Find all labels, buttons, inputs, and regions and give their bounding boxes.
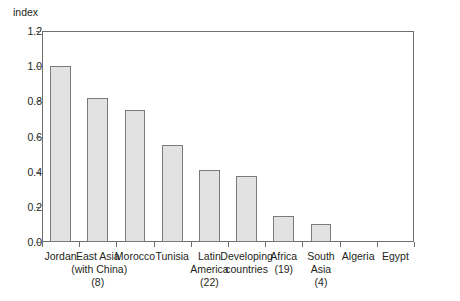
x-axis-label: Egypt bbox=[369, 250, 422, 263]
x-axis-tick-mark bbox=[228, 242, 229, 247]
x-axis-tick-mark bbox=[191, 242, 192, 247]
bar bbox=[273, 216, 294, 242]
bar bbox=[87, 98, 108, 242]
x-axis-label-line: (with China) bbox=[71, 263, 124, 276]
y-axis-tick-mark bbox=[36, 66, 41, 67]
bar bbox=[236, 176, 257, 242]
x-axis-tick-mark bbox=[79, 242, 80, 247]
x-axis-tick-mark bbox=[42, 242, 43, 247]
y-axis-tick-mark bbox=[36, 137, 41, 138]
x-axis-tick-mark bbox=[154, 242, 155, 247]
x-axis-label-line: Asia bbox=[294, 263, 347, 276]
y-axis-tick-mark bbox=[36, 172, 41, 173]
x-axis-tick-mark bbox=[414, 242, 415, 247]
bar bbox=[199, 170, 220, 242]
x-axis-label-line: (4) bbox=[294, 276, 347, 289]
bar bbox=[311, 224, 332, 242]
x-axis-tick-mark bbox=[265, 242, 266, 247]
bar bbox=[50, 66, 71, 242]
bar bbox=[162, 145, 183, 242]
x-axis-label-line: (8) bbox=[71, 276, 124, 289]
bar-chart: index 0.00.20.40.60.81.01.2 JordanEast A… bbox=[0, 0, 460, 301]
bar bbox=[125, 110, 146, 242]
y-axis-tick-mark bbox=[36, 101, 41, 102]
x-axis-tick-mark bbox=[302, 242, 303, 247]
y-axis-title: index bbox=[13, 6, 38, 18]
bar-series bbox=[42, 31, 414, 242]
x-axis-tick-mark bbox=[377, 242, 378, 247]
x-axis-label-line: Egypt bbox=[369, 250, 422, 263]
x-axis-label-line: (22) bbox=[183, 276, 236, 289]
y-axis-tick-mark bbox=[36, 207, 41, 208]
y-axis-tick-mark bbox=[36, 242, 41, 243]
x-axis-tick-mark bbox=[116, 242, 117, 247]
x-axis-tick-mark bbox=[340, 242, 341, 247]
y-axis-tick-mark bbox=[36, 31, 41, 32]
